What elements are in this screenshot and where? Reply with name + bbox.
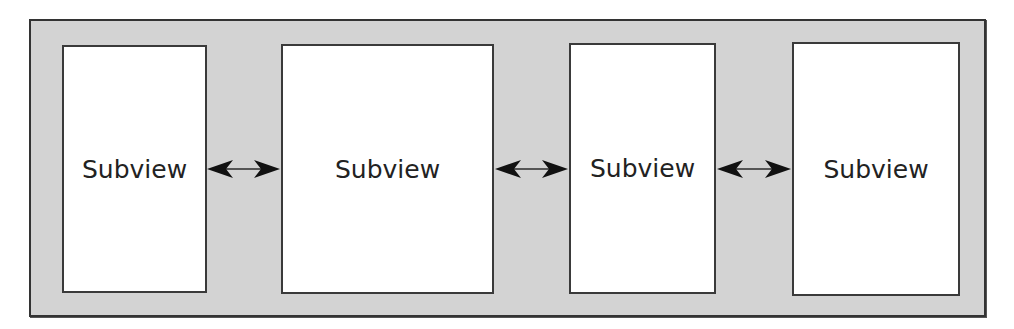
connection-arrows xyxy=(0,0,1014,329)
bidirectional-arrow-icon xyxy=(717,160,791,178)
bidirectional-arrow-icon xyxy=(495,160,568,178)
bidirectional-arrow-icon xyxy=(207,160,280,178)
